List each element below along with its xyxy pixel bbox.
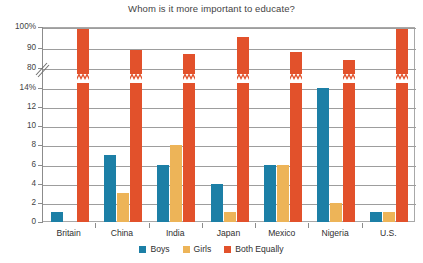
x-tick-label-india: India	[149, 228, 202, 238]
y-tick-label: 14%	[0, 84, 36, 92]
y-tick-mark	[38, 222, 42, 223]
y-tick-label: 8	[0, 141, 36, 149]
bar-break-zigzag	[343, 74, 355, 83]
bar-girls-mexico	[277, 165, 289, 222]
bar-both-equally-japan	[237, 37, 249, 222]
bar-both-equally-britain	[77, 29, 89, 222]
legend-swatch-icon	[183, 246, 190, 253]
bar-both-equally-us	[396, 29, 408, 222]
y-tick-label: 90	[0, 44, 36, 52]
bar-break-zigzag	[130, 74, 142, 83]
x-tick-label-mexico: Mexico	[255, 228, 308, 238]
bar-girls-us	[383, 212, 395, 222]
x-tick-label-china: China	[95, 228, 148, 238]
x-axis-separator	[202, 223, 203, 228]
legend-swatch-icon	[139, 246, 146, 253]
x-axis-separator	[95, 223, 96, 228]
x-tick-label-us: U.S.	[362, 228, 415, 238]
y-tick-label: 2	[0, 199, 36, 207]
chart-container: Whom is it more important to educate? 10…	[0, 0, 423, 263]
y-tick-label: 4	[0, 180, 36, 188]
bar-girls-nigeria	[330, 203, 342, 222]
y-tick-label: 100%	[0, 23, 36, 31]
bar-break-zigzag	[183, 74, 195, 83]
x-tick-label-japan: Japan	[202, 228, 255, 238]
bar-boys-japan	[211, 184, 223, 222]
bar-both-equally-nigeria	[343, 60, 355, 222]
legend-label: Girls	[194, 245, 212, 254]
bar-boys-china	[104, 155, 116, 222]
bar-break-zigzag	[237, 74, 249, 83]
y-tick-label: 12	[0, 103, 36, 111]
x-axis-separator	[255, 223, 256, 228]
legend-swatch-icon	[224, 246, 231, 253]
bar-break-zigzag	[290, 74, 302, 83]
x-tick-label-nigeria: Nigeria	[308, 228, 361, 238]
bar-boys-india	[157, 165, 169, 222]
y-tick-label: 6	[0, 161, 36, 169]
bar-girls-china	[117, 193, 129, 222]
bar-boys-mexico	[264, 165, 276, 222]
bars-layer	[42, 27, 415, 222]
bar-break-zigzag	[396, 74, 408, 83]
legend-label: Boys	[150, 245, 169, 254]
y-tick-label: 80	[0, 64, 36, 72]
bar-boys-us	[370, 212, 382, 222]
chart-legend: BoysGirlsBoth Equally	[0, 245, 423, 254]
legend-label: Both Equally	[235, 245, 283, 254]
x-tick-label-britain: Britain	[42, 228, 95, 238]
legend-item-girls[interactable]: Girls	[183, 245, 212, 254]
bar-girls-india	[170, 145, 182, 222]
legend-item-boys[interactable]: Boys	[139, 245, 169, 254]
x-axis-separator	[362, 223, 363, 228]
y-tick-label: 0	[0, 218, 36, 226]
bar-boys-nigeria	[317, 88, 329, 222]
y-tick-label: 10	[0, 122, 36, 130]
chart-title: Whom is it more important to educate?	[0, 3, 423, 14]
legend-item-both-equally[interactable]: Both Equally	[224, 245, 283, 254]
bar-boys-britain	[51, 212, 63, 222]
x-axis-separator	[149, 223, 150, 228]
bar-girls-japan	[224, 212, 236, 222]
bar-break-zigzag	[77, 74, 89, 83]
x-axis-separator	[308, 223, 309, 228]
